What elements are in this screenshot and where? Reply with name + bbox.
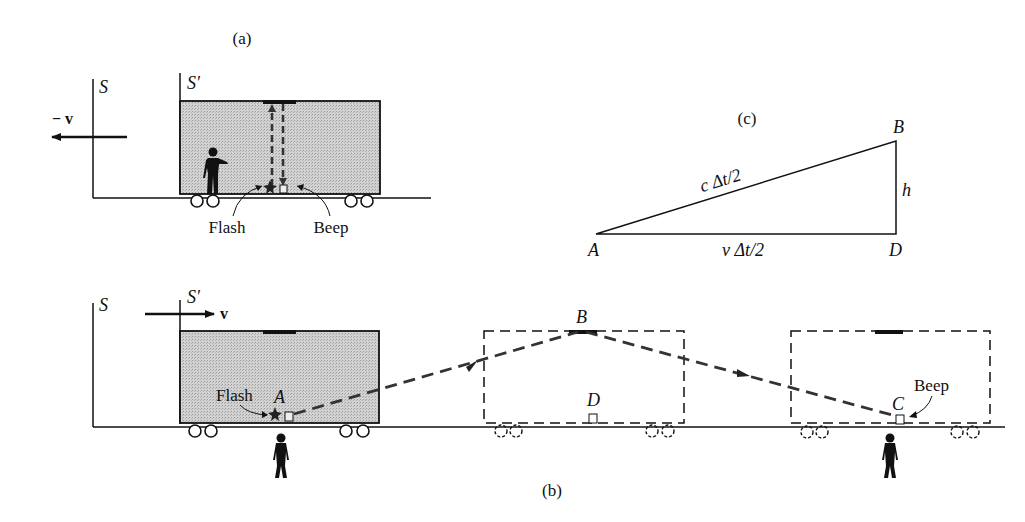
railcar-b-mid [484,331,684,423]
wheels-a [191,195,373,207]
mirror-b-start [263,330,296,334]
mirror-b-end [875,330,903,334]
relativity-light-clock-figure: (a) S − v S′ Flash [0,0,1025,522]
vertex-d-label: D [888,240,902,260]
panel-c-caption: (c) [738,109,757,128]
frame-s-prime-label-b: S′ [187,287,201,307]
base-label: v Δt/2 [722,240,764,260]
vertex-b-label: B [893,117,904,137]
detector-icon-b-end [896,415,904,424]
frame-s-label-b: S [99,295,108,315]
velocity-label-b: v [220,305,228,322]
ground-observer-start-icon [273,434,289,479]
panel-a: (a) S − v S′ Flash [52,29,431,237]
point-d-label: D [586,390,600,410]
detector-icon-b-mid [589,414,597,423]
beep-label-a: Beep [314,218,349,237]
detector-icon-b-start [285,412,293,421]
flash-label-a: Flash [209,218,246,237]
point-c-label: C [892,394,905,414]
velocity-label-a: − v [52,110,73,127]
beep-label-b: Beep [914,376,949,395]
frame-s-label-a: S [99,77,108,97]
light-path-arrow-down [737,369,750,377]
panel-c: (c) A B D h v Δt/2 c Δt/2 [587,109,911,260]
right-triangle-abd [596,141,896,234]
flash-label-b: Flash [216,386,253,405]
railcar-b-start [180,331,379,423]
point-b-label: B [576,307,587,327]
mirror-a [263,100,296,104]
vertex-a-label: A [587,240,600,260]
light-path-arrow-up [466,360,478,372]
height-label-h: h [902,180,911,200]
frame-s-prime-label-a: S′ [187,73,201,93]
panel-b-caption: (b) [542,481,562,500]
panel-a-caption: (a) [233,29,252,48]
ground-observer-end-icon [882,434,898,479]
point-a-label: A [273,387,286,407]
detector-icon-a [280,185,287,193]
panel-b: S S′ v Flash A B D [93,287,1005,500]
railcar-b-end [791,331,990,423]
